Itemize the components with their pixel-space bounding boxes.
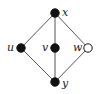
node-v xyxy=(51,44,59,52)
node-label-y: y xyxy=(61,77,69,90)
node-label-u: u xyxy=(7,41,14,54)
node-u xyxy=(17,44,25,52)
edge-x-w xyxy=(55,13,88,48)
node-y xyxy=(51,78,59,86)
edge-u-y xyxy=(21,48,55,82)
node-label-x: x xyxy=(62,6,69,19)
edge-x-u xyxy=(21,13,55,48)
node-label-v: v xyxy=(42,41,49,54)
node-w xyxy=(84,44,92,52)
edge-w-y xyxy=(55,48,88,82)
node-label-w: w xyxy=(73,41,83,54)
node-x xyxy=(51,9,59,17)
graph-diagram: xuvwy xyxy=(0,0,98,94)
